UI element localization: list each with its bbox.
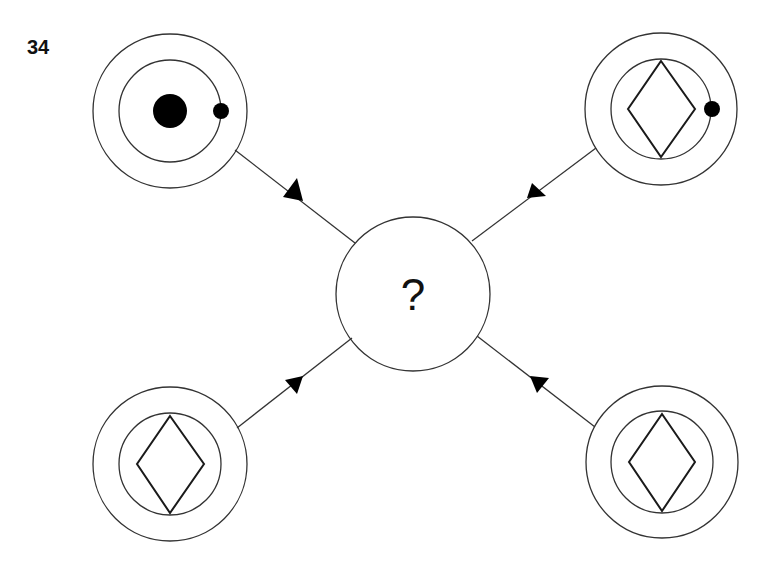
center-node: ? bbox=[336, 217, 490, 371]
connector-top-left bbox=[235, 150, 355, 243]
connector-bottom-left bbox=[237, 338, 352, 428]
small-dot-icon bbox=[213, 103, 229, 119]
connector-bottom-right bbox=[477, 336, 595, 427]
connector-top-right bbox=[472, 148, 596, 241]
arrow-up-left-icon bbox=[530, 376, 549, 393]
node-top-left bbox=[93, 34, 247, 188]
arrow-down-left-icon bbox=[527, 183, 546, 198]
node-bottom-right bbox=[586, 386, 738, 538]
diamond-icon bbox=[628, 61, 695, 157]
question-mark: ? bbox=[401, 270, 425, 319]
arrow-up-right-icon bbox=[285, 376, 303, 394]
node-bottom-left bbox=[93, 387, 247, 541]
small-dot-icon bbox=[704, 101, 720, 117]
diamond-icon bbox=[629, 414, 695, 511]
large-dot-icon bbox=[153, 94, 187, 128]
diamond-icon bbox=[137, 416, 204, 513]
puzzle-diagram: ? bbox=[0, 0, 770, 561]
node-top-right bbox=[585, 33, 737, 185]
